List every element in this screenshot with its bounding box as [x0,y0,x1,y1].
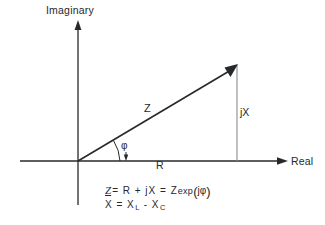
real-axis [20,157,288,165]
angle-arc [114,141,121,162]
impedance-vector-line [78,70,231,161]
equation-line-2: X = XL - XC [105,198,211,214]
real-axis-arrowhead [277,157,288,165]
phase-angle-label: φ [121,141,127,151]
angle-pointer-arrowhead [124,155,128,162]
imaginary-axis-arrowhead [75,20,82,30]
equation-exp-operator: exp [178,186,193,196]
equation-reactance-lhs: X = X [105,199,135,210]
imaginary-axis-label: Imaginary [46,5,94,16]
equation-reactance-minus: - X [140,199,160,210]
real-component-label: R [156,160,164,171]
imaginary-component-label: jX [240,107,249,118]
equation-exp-argument: jφ [198,185,207,196]
imaginary-axis [75,20,82,205]
impedance-vector [78,64,238,161]
angle-pointer [124,152,128,161]
equation-line-1-body: = R + jX = Z [112,185,178,196]
impedance-vector-arrowhead [225,64,239,77]
equation-close-paren: ) [206,184,210,199]
equation-line-1: Z= R + jX = Zexp(jφ) [105,184,211,198]
impedance-vector-label: Z [144,103,151,114]
impedance-phasor-figure: Imaginary Real Z jX R φ Z= R + jX = Zexp… [0,0,325,225]
real-axis-label: Real [291,156,313,167]
equation-block: Z= R + jX = Zexp(jφ) X = XL - XC [105,184,211,214]
equation-subscript-c: C [159,203,165,212]
